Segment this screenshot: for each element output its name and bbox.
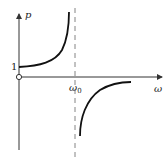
x-axis-label: ω <box>154 83 162 94</box>
origin-marker <box>16 74 21 79</box>
resonance-diagram: p 1 ω0 ω <box>0 0 168 160</box>
curve-right-branch <box>80 82 131 136</box>
y-tick-label: 1 <box>11 61 17 72</box>
curve-left-branch <box>19 12 69 67</box>
y-axis-label: p <box>25 9 32 20</box>
